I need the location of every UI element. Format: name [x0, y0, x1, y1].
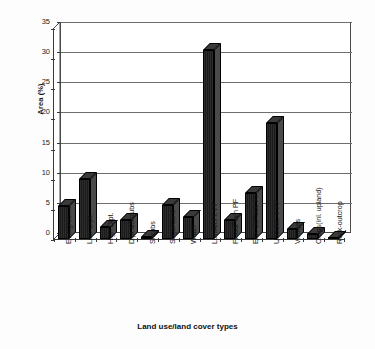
y-axis-tick-label: 0 — [28, 229, 50, 237]
x-axis-tick-label: Undulat. T PF — [273, 200, 281, 244]
x-axis-tickmark — [75, 238, 76, 242]
x-axis-tickmark — [220, 238, 221, 242]
x-axis-tickmark — [324, 238, 325, 242]
x-axis-tickmark — [54, 238, 55, 242]
x-axis-tick-label: LowAll.Pl. PF — [211, 201, 219, 244]
x-axis-tick-label: FloodPlain PF — [232, 199, 240, 244]
x-axis-tickmark — [158, 238, 159, 242]
bar-chart-figure: Area (%) 05101520253035 Evergreen FLow D… — [0, 0, 375, 349]
x-axis-tickmark — [262, 238, 263, 242]
y-axis-tick-label: 15 — [28, 139, 50, 147]
x-axis-tickmark — [200, 238, 201, 242]
x-axis-tickmark — [303, 238, 304, 242]
y-axis-tickmark-connector — [51, 150, 55, 151]
x-axis-tick-label: Rock-outcrop — [336, 201, 344, 244]
x-axis-tick-label: Sugarcane — [169, 209, 177, 244]
x-axis-title: Land use/land cover types — [0, 322, 375, 331]
y-axis-tickmark-connector — [51, 29, 55, 30]
y-axis-tickmark-connector — [51, 180, 55, 181]
y-axis-tickmark-connector — [51, 89, 55, 90]
x-axis-tickmark — [241, 238, 242, 242]
x-axis-tickmark — [283, 238, 284, 242]
y-axis-tick-label: 35 — [28, 18, 50, 26]
y-axis-tickmark — [57, 22, 61, 23]
y-axis-tick-labels: 05101520253035 — [22, 0, 50, 349]
x-axis-tick-label: Water — [190, 225, 198, 244]
x-axis-tick-label: Villages — [294, 219, 302, 244]
plot-front-panel — [53, 29, 344, 240]
gridline — [61, 22, 352, 23]
y-axis-tickmark — [57, 143, 61, 144]
x-axis-tick-label: Ero. Surface PF — [252, 193, 260, 244]
y-axis-tickmark-connector — [51, 210, 55, 211]
x-axis-tick-label: High Dipt. — [107, 212, 115, 244]
x-axis-tick-label: Dipt.&Scrubs — [128, 202, 136, 244]
plot-area — [53, 22, 351, 240]
x-axis-tick-label: Shrubs — [149, 221, 157, 244]
y-axis-tick-label: 25 — [28, 78, 50, 86]
x-axis-tickmark — [179, 238, 180, 242]
y-axis-tick-label: 10 — [28, 169, 50, 177]
y-axis-tickmark — [57, 112, 61, 113]
x-axis-tick-label: Low Dipt. — [86, 214, 94, 244]
y-axis-tickmark-connector — [51, 59, 55, 60]
y-axis-tick-label: 5 — [28, 199, 50, 207]
y-axis-tick-label: 30 — [28, 48, 50, 56]
x-axis-tickmark — [137, 238, 138, 242]
y-axis-tickmark — [57, 82, 61, 83]
x-axis-tick-label: Crops(inl. upland) — [315, 187, 323, 244]
y-axis-tickmark — [57, 173, 61, 174]
y-axis-tick-label: 20 — [28, 108, 50, 116]
x-axis-tickmark — [116, 238, 117, 242]
x-axis-tickmark — [344, 238, 345, 242]
y-axis-tickmark-connector — [51, 119, 55, 120]
x-axis-tick-label: Evergreen F — [65, 204, 73, 244]
y-axis-tickmark — [57, 52, 61, 53]
x-axis-tickmark — [96, 238, 97, 242]
